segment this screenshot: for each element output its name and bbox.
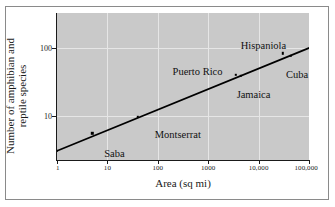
- y-tick-mark: [52, 48, 56, 49]
- y-tick-mark: [52, 116, 56, 117]
- x-tick-label: 100: [152, 164, 163, 172]
- data-point: [281, 52, 283, 54]
- x-axis-title: Area (sq mi): [57, 177, 309, 189]
- x-tick-label: 10,000: [249, 164, 269, 172]
- data-point-label: Cuba: [286, 70, 308, 81]
- data-point: [234, 74, 236, 76]
- data-point: [91, 132, 93, 134]
- y-tick-label: 10: [44, 111, 52, 120]
- y-axis-title: Number of amphibian and reptile species: [4, 36, 28, 156]
- x-tick-label: 10: [104, 164, 111, 172]
- y-tick-label: 100: [40, 44, 52, 53]
- data-point-label: Puerto Rico: [173, 67, 223, 78]
- x-tick-label: 100,000: [294, 164, 317, 172]
- data-point: [239, 74, 241, 76]
- data-point: [137, 116, 139, 118]
- x-tick-label: 1000: [201, 164, 215, 172]
- figure-container: RedondaSabaMontserratPuerto RicoJamaicaH…: [0, 0, 335, 207]
- data-point-label: Hispaniola: [241, 41, 287, 52]
- data-point: [290, 55, 292, 57]
- plot-panel: RedondaSabaMontserratPuerto RicoJamaicaH…: [57, 13, 309, 160]
- data-point-label: Saba: [104, 149, 124, 160]
- data-point-label: Montserrat: [155, 130, 201, 141]
- x-tick-label: 1: [56, 164, 60, 172]
- y-axis-line: [56, 13, 57, 161]
- x-axis-line: [56, 160, 310, 161]
- data-point-label: Jamaica: [237, 90, 271, 101]
